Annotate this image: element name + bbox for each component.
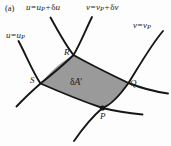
curve-label-u-base-var: u <box>6 30 11 40</box>
curve-label-u-upper-delta-var: u <box>55 2 60 12</box>
vertex-label-Q: Q <box>130 79 137 88</box>
area-element-label: δA′ <box>70 78 82 88</box>
vertex-label-P: P <box>100 112 106 121</box>
curve-label-u-upper-var: u <box>26 2 31 12</box>
panel-label: (a) <box>5 4 14 13</box>
curve-label-v-upper: v=vP+δv <box>86 3 118 13</box>
point-marker-P <box>100 105 105 110</box>
area-element-prime: ′ <box>80 77 82 87</box>
curve-label-v-upper-delta-var: v <box>114 2 118 12</box>
curve-label-v-base: v=vP <box>133 21 151 31</box>
curve-label-v-base-sub: P <box>147 23 151 30</box>
curve-label-u-base-sub: P <box>21 33 25 40</box>
vertex-label-S: S <box>30 76 35 85</box>
vertex-label-R: R <box>64 48 70 57</box>
figure-container: (a) u=uP+δu v=vP+δv v=vP u=uP R S Q P δA… <box>0 0 171 146</box>
curve-label-u-upper: u=uP+δu <box>26 3 60 13</box>
curve-label-u-base: u=uP <box>6 31 25 41</box>
